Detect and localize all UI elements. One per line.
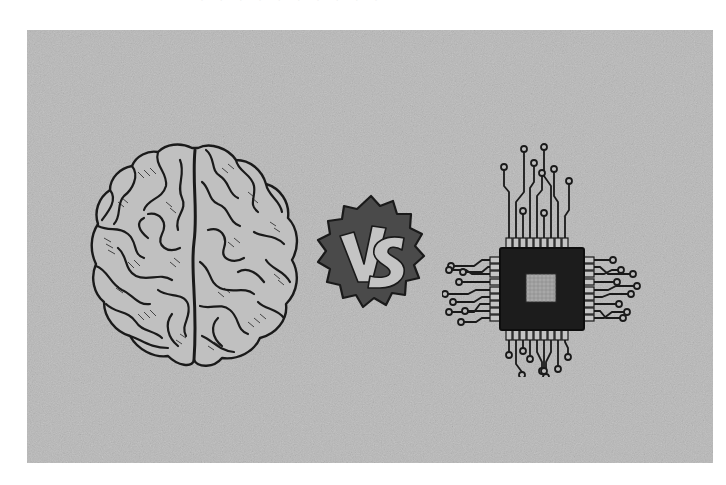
illustration-panel: VS	[27, 30, 713, 463]
microchip-illustration	[442, 142, 642, 377]
cropped-heading-text: · · · · · · · · · ·	[200, 0, 600, 4]
vs-badge: VS	[310, 192, 432, 314]
brain-illustration	[88, 142, 302, 372]
image-canvas: · · · · · · · · · ·	[0, 0, 726, 485]
